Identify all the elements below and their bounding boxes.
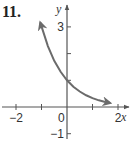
curve-exponential-decay [40,22,110,103]
y-tick-label: 3 [57,20,64,34]
y-axis-label: y [55,2,62,16]
x-tick-label: 0 [58,111,65,125]
chart: xy−2023−1 [0,0,131,142]
tick-labels: xy−2023−1 [9,2,127,141]
x-tick-label: −2 [9,111,23,125]
x-tick-label: 2 [115,111,122,125]
series [40,22,110,103]
y-tick-label: −1 [50,127,64,141]
